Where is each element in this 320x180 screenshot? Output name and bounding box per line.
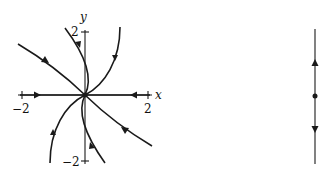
- phase-line: [312, 29, 319, 164]
- x-tick-label-neg: −2: [12, 102, 30, 116]
- arrow-left-icon: [130, 92, 137, 99]
- arrow-down-icon: [312, 126, 319, 133]
- x-tick-label-pos: 2: [144, 102, 152, 116]
- trajectory-upper-left: [18, 44, 85, 95]
- x-axis-label: x: [155, 88, 162, 102]
- trajectory-upper-right: [85, 27, 120, 95]
- y-tick-label-neg: −2: [62, 155, 80, 169]
- arrow-up-icon: [312, 59, 319, 66]
- y-axis-label: y: [79, 10, 87, 24]
- phase-line-equilibrium-dot: [313, 94, 318, 99]
- diagram-canvas: x y −2 2 2 −2: [0, 0, 320, 180]
- arrow-down-icon: [112, 55, 118, 61]
- trajectory-lower-right: [85, 95, 152, 146]
- trajectory-lower-left: [50, 95, 85, 163]
- arrow-right-icon: [34, 92, 41, 99]
- equilibrium-point: [83, 93, 88, 98]
